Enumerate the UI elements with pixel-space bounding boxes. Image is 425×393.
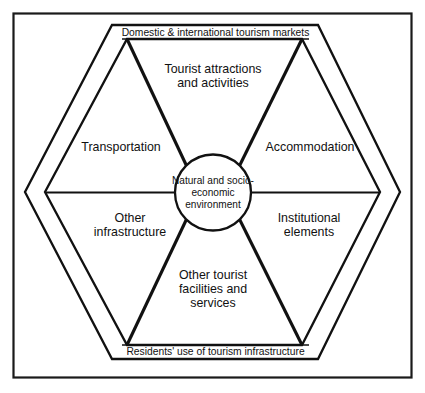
center-label: Natural and socio- economic environment [160, 175, 266, 211]
sector-label-other-infrastructure: Other infrastructure [72, 211, 188, 239]
bottom-banner-label: Residents' use of tourism infrastructure [113, 346, 318, 358]
sector-label-accommodation: Accommodation [251, 140, 369, 154]
figure-root: Natural and socio- economic environment … [0, 0, 425, 393]
sector-label-tourist-attractions: Tourist attractions and activities [148, 62, 278, 90]
sector-label-other-tourist-facilities: Other tourist facilities and services [156, 268, 270, 310]
sector-label-institutional-elements: Institutional elements [255, 211, 363, 239]
sector-label-transportation: Transportation [62, 140, 180, 154]
top-banner-label: Domestic & international tourism markets [113, 27, 318, 39]
